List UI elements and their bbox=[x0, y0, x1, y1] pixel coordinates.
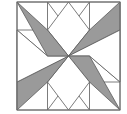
quilt-block-diagram bbox=[0, 0, 127, 114]
figure-root: b. bbox=[0, 0, 127, 114]
star-diamonds-group bbox=[17, 2, 120, 110]
